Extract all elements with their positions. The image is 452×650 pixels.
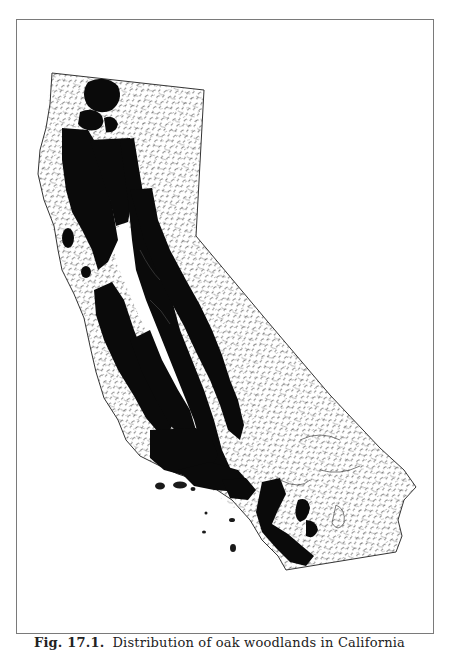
figure-caption: Fig. 17.1.Distribution of oak woodlands … — [34, 636, 405, 650]
figure-label: Fig. 17.1. — [34, 635, 105, 650]
figure-caption-text: Distribution of oak woodlands in Califor… — [113, 635, 406, 650]
